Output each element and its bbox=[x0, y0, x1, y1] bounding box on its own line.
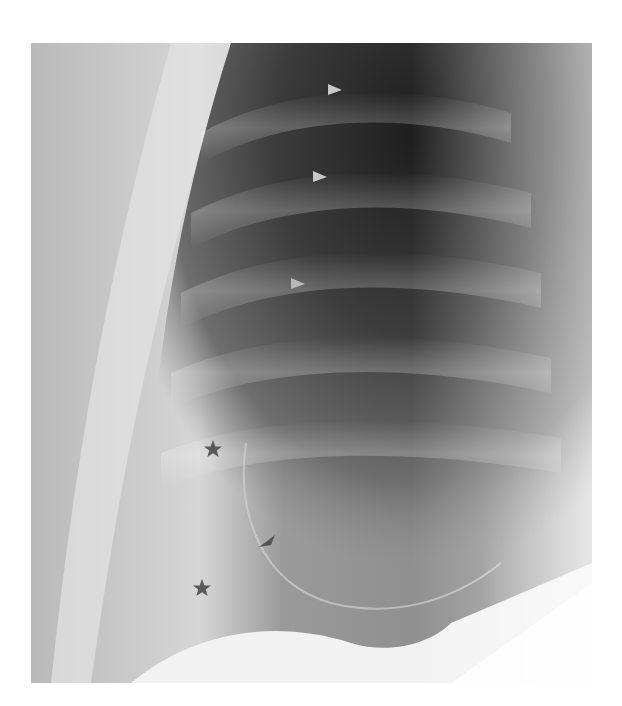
arrowhead-marker-2 bbox=[313, 171, 329, 183]
arrowhead-marker-4 bbox=[259, 535, 277, 549]
arrowhead-marker-1 bbox=[328, 84, 344, 96]
arrowhead-marker-3 bbox=[291, 278, 307, 290]
radiograph-svg bbox=[31, 43, 592, 683]
star-marker-2 bbox=[193, 579, 211, 597]
radiograph-image bbox=[31, 43, 592, 683]
star-marker-1 bbox=[204, 440, 222, 458]
